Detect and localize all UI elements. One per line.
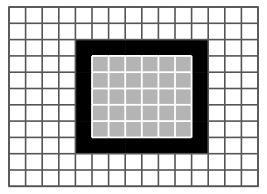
figure-stage xyxy=(0,0,267,194)
pixel-grid-canvas xyxy=(0,0,267,194)
